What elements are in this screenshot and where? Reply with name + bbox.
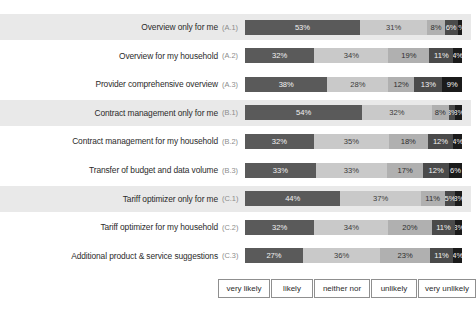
bar-segment-likely: 36% xyxy=(303,248,380,263)
row-code: (B.2) xyxy=(222,128,238,154)
bar-segment-very-unlikely: 2% xyxy=(458,20,462,35)
row-code: (C.2) xyxy=(222,214,238,240)
row-label: Overview for my household xyxy=(119,43,218,69)
bar-segment-likely: 34% xyxy=(314,220,388,235)
row-code: (C.3) xyxy=(222,243,238,269)
bar-segment-unlikely: 11% xyxy=(432,220,456,235)
bar-segment-very-unlikely: 4% xyxy=(453,248,462,263)
chart-row: Overview only for me(A.1)53%31%8%6%2% xyxy=(0,14,471,40)
row-code: (B.1) xyxy=(222,100,238,126)
row-label: Contract management for my household xyxy=(72,128,218,154)
stacked-bar: 32%34%20%11%3% xyxy=(245,220,462,235)
bar-segment-very-likely: 53% xyxy=(245,20,360,35)
row-label: Transfer of budget and data volume xyxy=(89,157,218,183)
bar-segment-very-unlikely: 3% xyxy=(455,105,462,120)
bar-segment-neither-nor: 17% xyxy=(387,163,424,178)
bar-segment-very-likely: 54% xyxy=(245,105,362,120)
stacked-bar: 54%32%8%3%3% xyxy=(245,105,462,120)
legend-item-very-unlikely[interactable]: very unlikely xyxy=(418,279,476,298)
bar-segment-neither-nor: 8% xyxy=(427,20,444,35)
row-label: Tariff optimizer only for me xyxy=(123,186,218,212)
chart-row: Contract management only for me(B.1)54%3… xyxy=(0,100,471,126)
chart-row: Tariff optimizer only for me(C.1)44%37%1… xyxy=(0,186,471,212)
bar-segment-very-likely: 32% xyxy=(245,220,314,235)
bar-segment-likely: 33% xyxy=(316,163,387,178)
bar-segment-unlikely: 11% xyxy=(430,248,454,263)
row-label: Provider comprehensive overview xyxy=(95,71,218,97)
bar-segment-neither-nor: 18% xyxy=(389,134,428,149)
bar-segment-likely: 37% xyxy=(340,191,420,206)
row-label: Tariff optimizer for my household xyxy=(100,214,218,240)
bar-segment-unlikely: 12% xyxy=(428,134,454,149)
bar-segment-very-unlikely: 4% xyxy=(453,48,462,63)
bar-segment-very-unlikely: 4% xyxy=(453,134,462,149)
bar-segment-very-likely: 32% xyxy=(245,48,314,63)
bar-segment-very-unlikely: 6% xyxy=(449,163,462,178)
row-label: Additional product & service suggestions xyxy=(71,243,218,269)
bar-segment-very-likely: 32% xyxy=(245,134,314,149)
bar-segment-neither-nor: 11% xyxy=(421,191,445,206)
row-code: (C.1) xyxy=(222,186,238,212)
stacked-bar: 53%31%8%6%2% xyxy=(245,20,462,35)
stacked-bar: 44%37%11%5%3% xyxy=(245,191,462,206)
row-code: (A.2) xyxy=(222,43,238,69)
bar-segment-very-likely: 33% xyxy=(245,163,316,178)
row-code: (A.3) xyxy=(222,71,238,97)
chart-row: Contract management for my household(B.2… xyxy=(0,128,471,154)
chart-row: Transfer of budget and data volume(B.3)3… xyxy=(0,157,471,183)
bar-segment-likely: 28% xyxy=(327,77,388,92)
bar-segment-unlikely: 6% xyxy=(445,20,458,35)
chart-legend: very likelylikelyneither norunlikelyvery… xyxy=(218,279,476,298)
row-code: (A.1) xyxy=(222,14,238,40)
bar-segment-unlikely: 11% xyxy=(429,48,453,63)
stacked-bar: 33%33%17%12%6% xyxy=(245,163,462,178)
bar-segment-neither-nor: 19% xyxy=(388,48,429,63)
row-label: Contract management only for me xyxy=(94,100,218,126)
chart-row: Tariff optimizer for my household(C.2)32… xyxy=(0,214,471,240)
bar-segment-neither-nor: 12% xyxy=(388,77,414,92)
bar-segment-likely: 34% xyxy=(314,48,388,63)
bar-segment-very-likely: 38% xyxy=(245,77,327,92)
legend-item-very-likely[interactable]: very likely xyxy=(218,279,270,298)
bar-segment-very-unlikely: 9% xyxy=(442,77,462,92)
bar-segment-unlikely: 12% xyxy=(423,163,449,178)
bar-segment-neither-nor: 23% xyxy=(380,248,429,263)
stacked-bar: 27%36%23%11%4% xyxy=(245,248,462,263)
chart-row: Provider comprehensive overview(A.3)38%2… xyxy=(0,71,471,97)
chart-row: Overview for my household(A.2)32%34%19%1… xyxy=(0,43,471,69)
stacked-bar: 38%28%12%13%9% xyxy=(245,77,462,92)
bar-segment-very-likely: 44% xyxy=(245,191,340,206)
row-code: (B.3) xyxy=(222,157,238,183)
stacked-bar: 32%35%18%12%4% xyxy=(245,134,462,149)
legend-item-unlikely[interactable]: unlikely xyxy=(371,279,417,298)
legend-item-likely[interactable]: likely xyxy=(271,279,313,298)
row-label: Overview only for me xyxy=(141,14,218,40)
bar-segment-unlikely: 5% xyxy=(445,191,456,206)
bar-segment-neither-nor: 20% xyxy=(388,220,431,235)
bar-segment-likely: 32% xyxy=(362,105,431,120)
bar-segment-likely: 35% xyxy=(314,134,389,149)
bar-segment-very-likely: 27% xyxy=(245,248,303,263)
bar-segment-unlikely: 13% xyxy=(414,77,442,92)
stacked-bar: 32%34%19%11%4% xyxy=(245,48,462,63)
bar-segment-very-unlikely: 3% xyxy=(455,220,462,235)
chart-row: Additional product & service suggestions… xyxy=(0,243,471,269)
bar-segment-likely: 31% xyxy=(360,20,427,35)
legend-item-neither-nor[interactable]: neither nor xyxy=(314,279,370,298)
bar-segment-neither-nor: 8% xyxy=(432,105,449,120)
bar-segment-very-unlikely: 3% xyxy=(455,191,462,206)
